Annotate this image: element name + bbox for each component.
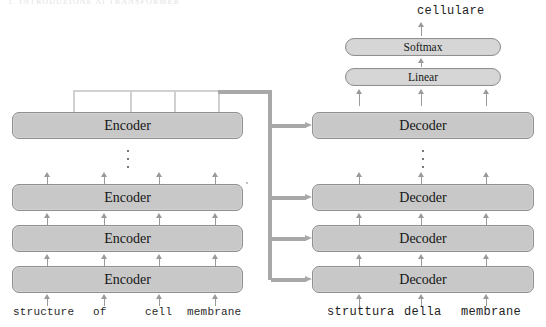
arrow-into-encoder-bottom-3 xyxy=(156,254,163,266)
arrow-into-encoder-mid-1 xyxy=(44,172,51,184)
decoder-label: Decoder xyxy=(399,190,446,206)
encoder-label: Encoder xyxy=(104,272,151,288)
arrow-into-encoder-mid-4 xyxy=(212,172,219,184)
arrow-into-encoder-3-2 xyxy=(101,213,108,225)
input-token-membrane: membrane xyxy=(187,306,241,318)
arrow-softmax-to-output xyxy=(418,22,425,36)
arrow-into-decoder-mid-1 xyxy=(356,172,363,184)
arrow-into-decoder-3-2 xyxy=(418,213,425,225)
cross-attention-arrow-1 xyxy=(271,122,312,129)
arrow-into-decoder-bottom-3 xyxy=(483,254,490,266)
output-token-cellulare: cellulare xyxy=(417,4,485,18)
arrow-token-to-encoder-1 xyxy=(44,294,51,306)
encoder-block-top: Encoder xyxy=(12,112,243,139)
encoder-label: Encoder xyxy=(104,118,151,134)
encoder-label: Encoder xyxy=(104,190,151,206)
input-token-structure: structure xyxy=(13,306,74,318)
decoder-label: Decoder xyxy=(399,118,446,134)
arrow-decoder-to-linear-1 xyxy=(356,89,363,106)
arrow-into-decoder-mid-3 xyxy=(483,172,490,184)
page-header: 1. INTRODUZIONE AI TRANSFORMER xyxy=(8,0,428,7)
encoder-output-tap-3 xyxy=(174,90,176,112)
arrow-token-to-encoder-2 xyxy=(101,294,108,306)
softmax-label: Softmax xyxy=(404,41,443,53)
decoder-block-bottom: Decoder xyxy=(312,266,534,293)
encoder-block-middle: Encoder xyxy=(12,184,243,211)
encoder-block-third: Encoder xyxy=(12,225,243,252)
decoder-input-token-membrane: membrane xyxy=(461,305,521,319)
arrow-into-decoder-bottom-2 xyxy=(418,254,425,266)
cross-attention-arrow-2 xyxy=(271,194,312,201)
arrow-into-encoder-3-1 xyxy=(44,213,51,225)
decoder-input-token-struttura: struttura xyxy=(327,305,395,319)
input-token-of: of xyxy=(93,306,107,318)
arrow-into-decoder-3-3 xyxy=(483,213,490,225)
arrow-decoder-to-linear-3 xyxy=(483,89,490,106)
encoder-stack-ellipsis xyxy=(125,150,131,168)
arrow-into-encoder-3-4 xyxy=(212,213,219,225)
encoder-output-tap-2 xyxy=(130,90,132,112)
encoder-block-bottom: Encoder xyxy=(12,266,243,293)
cross-attention-arrow-4 xyxy=(271,276,312,283)
arrow-into-decoder-3-1 xyxy=(356,213,363,225)
decoder-stack-ellipsis xyxy=(420,150,426,168)
arrow-into-encoder-mid-3 xyxy=(156,172,163,184)
decoder-label: Decoder xyxy=(399,272,446,288)
cross-attention-bus-top xyxy=(218,90,272,94)
linear-label: Linear xyxy=(408,71,438,83)
arrow-token-to-encoder-3 xyxy=(156,294,163,306)
arrow-into-encoder-bottom-4 xyxy=(212,254,219,266)
arrow-into-encoder-mid-2 xyxy=(101,172,108,184)
arrow-into-decoder-bottom-1 xyxy=(356,254,363,266)
arrow-into-encoder-bottom-2 xyxy=(101,254,108,266)
arrow-decoder-to-linear-2 xyxy=(418,89,425,106)
encoder-output-tap-1 xyxy=(73,90,75,112)
decoder-block-middle: Decoder xyxy=(312,184,534,211)
decoder-block-top: Decoder xyxy=(312,112,534,139)
encoder-label: Encoder xyxy=(104,231,151,247)
linear-block: Linear xyxy=(345,68,501,86)
arrow-into-encoder-3-3 xyxy=(156,213,163,225)
page-speck xyxy=(246,182,248,184)
softmax-block: Softmax xyxy=(345,38,501,56)
arrow-token-to-encoder-4 xyxy=(212,294,219,306)
input-token-cell: cell xyxy=(145,306,172,318)
arrow-linear-to-softmax xyxy=(418,58,425,67)
cross-attention-bus-trunk xyxy=(268,90,272,280)
arrow-into-encoder-bottom-1 xyxy=(44,254,51,266)
decoder-block-third: Decoder xyxy=(312,225,534,252)
decoder-input-token-della: della xyxy=(404,305,442,319)
arrow-into-decoder-mid-2 xyxy=(418,172,425,184)
decoder-label: Decoder xyxy=(399,231,446,247)
cross-attention-arrow-3 xyxy=(271,235,312,242)
diagram-canvas: 1. INTRODUZIONE AI TRANSFORMER cellulare… xyxy=(0,0,546,327)
